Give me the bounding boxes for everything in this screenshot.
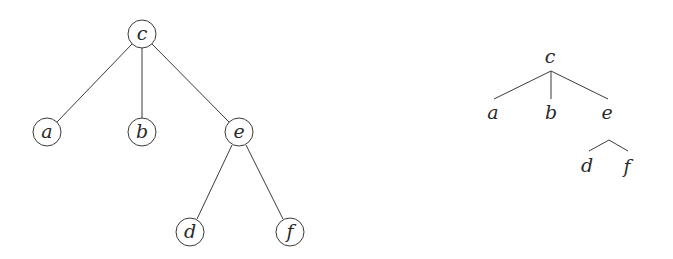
edge-e-d: [197, 145, 232, 219]
node-d-label: d: [184, 220, 196, 242]
edge-c-e: [551, 71, 608, 99]
edge-c-a: [494, 71, 551, 99]
edge-e-f: [609, 140, 628, 151]
edge-e-d: [589, 140, 609, 151]
node-d-label: d: [581, 154, 593, 176]
node-f: f: [276, 218, 304, 246]
node-c: c: [128, 20, 156, 48]
node-f-label: f: [621, 155, 633, 177]
right-tree: c a b e d f: [487, 45, 633, 177]
node-d: d: [176, 218, 204, 246]
node-b: b: [128, 118, 156, 146]
node-e-label: e: [601, 101, 612, 123]
node-c-label: c: [545, 45, 556, 67]
node-e: e: [225, 118, 253, 146]
edge-c-e: [152, 44, 229, 122]
node-b-label: b: [545, 101, 557, 123]
node-b-label: b: [136, 120, 148, 142]
node-a-label: a: [487, 101, 498, 123]
diagram-canvas: c a b e d f c a b e d: [0, 0, 673, 259]
node-a: a: [33, 118, 61, 146]
left-tree: c a b e d f: [33, 20, 304, 246]
edge-c-a: [57, 44, 132, 122]
edge-e-f: [246, 145, 283, 219]
node-a-label: a: [41, 120, 52, 142]
node-e-label: e: [233, 120, 244, 142]
node-c-label: c: [137, 22, 148, 44]
